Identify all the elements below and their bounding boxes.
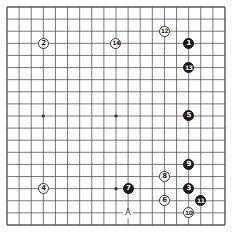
black-stone: 9 [183,159,194,170]
white-stone: 4 [38,183,49,194]
point-label: A [123,208,133,218]
black-stone: 7 [123,183,134,194]
black-stone: 1 [183,38,194,49]
white-stone: 8 [159,171,170,182]
star-point [42,114,45,117]
star-point [114,187,117,190]
star-point [114,114,117,117]
white-stone: 2 [38,38,49,49]
white-stone: 12 [159,26,170,37]
